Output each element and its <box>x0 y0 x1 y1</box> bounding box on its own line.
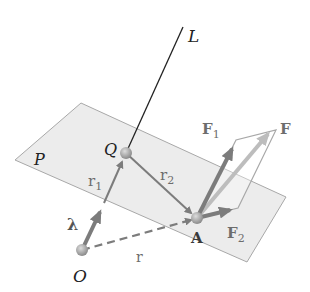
label-Q: Q <box>104 140 117 159</box>
point-A <box>191 212 203 224</box>
label-L: L <box>187 26 199 46</box>
point-Q <box>120 147 132 159</box>
unit-vector-lambda <box>82 212 100 250</box>
point-O <box>76 244 88 256</box>
label-A: A <box>190 229 203 247</box>
diagram-canvas: L P Q O A λ r1 r2 r F F1 F2 <box>0 0 310 292</box>
label-F: F <box>280 120 291 138</box>
label-P: P <box>33 150 45 169</box>
axis-line-L <box>126 27 183 153</box>
label-lambda: λ <box>67 215 78 234</box>
label-r: r <box>136 249 143 265</box>
label-O: O <box>73 266 87 286</box>
force-moment-diagram: L P Q O A λ r1 r2 r F F1 F2 <box>0 0 310 292</box>
position-vector-r <box>82 220 191 250</box>
label-F1: F1 <box>202 120 220 141</box>
